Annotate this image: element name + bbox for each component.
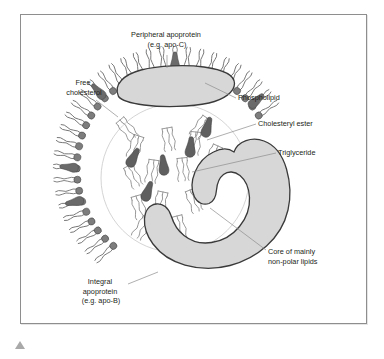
label-integral-apoprotein-line1: Integral xyxy=(88,277,113,286)
figure-stage: Peripheral apoprotein (e.g. apo-C) Free … xyxy=(0,0,384,359)
label-free-cholesterol-line2: cholesterol xyxy=(66,88,102,97)
label-free-cholesterol-line1: Free xyxy=(75,78,90,87)
label-core-non-polar-lipids: Core of mainly non-polar lipids xyxy=(268,247,318,266)
label-free-cholesterol: Free cholesterol xyxy=(66,78,102,97)
label-phospholipid: Phospholipid xyxy=(238,93,280,102)
phospholipid-molecule xyxy=(76,226,103,246)
label-cholesteryl-ester: Cholesteryl ester xyxy=(258,119,313,128)
label-integral-apoprotein-line2: apoprotein xyxy=(83,287,118,296)
phospholipid-molecule xyxy=(63,207,91,222)
phospholipid-molecule xyxy=(94,241,119,264)
leader-integral-apoprotein xyxy=(128,272,158,284)
phospholipid-molecule xyxy=(55,187,83,197)
label-triglyceride: Triglyceride xyxy=(278,148,315,157)
free-cholesterol-molecule xyxy=(59,162,78,173)
label-integral-apoprotein: Integral apoprotein (e.g. apo-B) xyxy=(82,277,121,305)
phospholipid-molecule xyxy=(54,149,82,161)
lipoprotein-diagram: Peripheral apoprotein (e.g. apo-C) Free … xyxy=(0,0,384,359)
peripheral-apoprotein-shape xyxy=(117,66,234,107)
phospholipid-molecule xyxy=(54,176,81,183)
free-cholesterol-molecule xyxy=(65,196,85,209)
label-peripheral-apoprotein-line1: Peripheral apoprotein xyxy=(131,30,201,39)
label-integral-apoprotein-line3: (e.g. apo-B) xyxy=(82,296,121,305)
label-peripheral-apoprotein: Peripheral apoprotein (e.g. apo-C) xyxy=(131,30,203,49)
triangle-up-marker-icon[interactable] xyxy=(15,341,25,349)
phospholipid-molecule xyxy=(64,110,91,130)
label-core-line1: Core of mainly xyxy=(268,247,315,256)
phospholipid-molecule xyxy=(69,217,97,234)
label-peripheral-apoprotein-line2: (e.g. apo-C) xyxy=(148,40,187,49)
label-core-line2: non-polar lipids xyxy=(268,257,318,266)
